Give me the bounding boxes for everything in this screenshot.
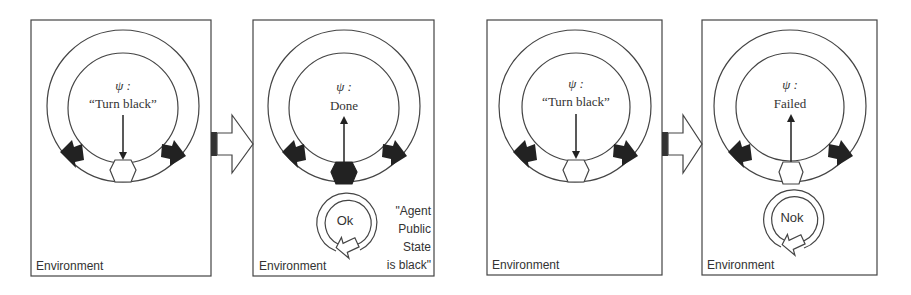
note-line: is black" xyxy=(387,258,431,272)
loop-arrowhead-icon xyxy=(333,232,361,261)
loop-arrowhead-icon xyxy=(779,229,807,258)
diagram-canvas: ψ : “Turn black” Environment ψ : Done Ok xyxy=(0,0,911,295)
environment-label: Environment xyxy=(36,259,104,273)
arrow-tail-block xyxy=(211,132,217,156)
panel-border xyxy=(31,20,211,276)
panel-border xyxy=(487,20,662,275)
environment-label: Environment xyxy=(707,258,775,272)
environment-label: Environment xyxy=(492,258,560,272)
psi-label: ψ : xyxy=(115,78,131,93)
arrowhead-icon xyxy=(787,114,795,122)
ring-arrow-left-icon xyxy=(60,140,84,168)
goal-text: Failed xyxy=(774,96,807,111)
ring-arrow-left-icon xyxy=(728,140,752,168)
panel-2: ψ : Done Ok "Agent Public State is black… xyxy=(253,20,434,276)
note-line: "Agent xyxy=(395,204,431,218)
feedback-loop: Ok xyxy=(317,193,377,261)
arrowhead-icon xyxy=(340,116,348,124)
ring-arrow-left-icon xyxy=(513,140,537,168)
hexagon-state-white xyxy=(779,162,803,184)
arrow-tail-block xyxy=(662,132,668,156)
feedback-label: Ok xyxy=(337,213,354,228)
psi-label: ψ : xyxy=(336,79,352,94)
transition-arrow-1 xyxy=(211,115,253,173)
feedback-label: Nok xyxy=(780,210,804,225)
goal-text: “Turn black” xyxy=(89,96,157,111)
panel-4: ψ : Failed Nok Environment xyxy=(702,20,877,275)
hexagon-state-white xyxy=(563,160,589,182)
hexagon-state-black xyxy=(331,162,357,184)
goal-text: Done xyxy=(330,98,358,113)
feedback-loop: Nok xyxy=(764,190,824,258)
goal-text: “Turn black” xyxy=(542,94,610,109)
right-arrow-icon xyxy=(217,115,253,173)
ring-arrow-right-icon xyxy=(613,140,638,166)
environment-label: Environment xyxy=(259,259,327,273)
panel-3: ψ : “Turn black” Environment xyxy=(487,20,662,275)
note-line: State xyxy=(403,240,431,254)
hexagon-state-white xyxy=(110,160,136,182)
note-text: "Agent Public State is black" xyxy=(387,204,432,272)
panel-1: ψ : “Turn black” Environment xyxy=(31,20,211,276)
ring-arrow-right-icon xyxy=(828,140,853,166)
transition-arrow-2 xyxy=(662,115,702,173)
psi-label: ψ : xyxy=(568,76,584,91)
arrowhead-icon xyxy=(572,151,580,159)
panel-border xyxy=(702,20,877,275)
right-arrow-icon xyxy=(668,115,702,173)
psi-label: ψ : xyxy=(782,77,798,92)
note-line: Public xyxy=(398,222,431,236)
arrowhead-icon xyxy=(119,152,127,160)
